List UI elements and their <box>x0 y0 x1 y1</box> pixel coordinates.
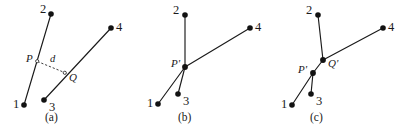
point-label-P-prime-panel-c: P' <box>298 64 307 75</box>
vertex-label-1-panel-b: 1 <box>147 97 153 110</box>
segment-2-Qprime-panel-c <box>318 15 323 60</box>
vertex-2-dot-panel-c <box>315 12 321 18</box>
point-label-Q-prime-panel-c: Q' <box>328 58 338 69</box>
panel-caption-c: (c) <box>310 112 323 124</box>
vertex-2-dot-panel-a <box>48 11 54 17</box>
point-P-marker-panel-a <box>36 60 39 63</box>
vertex-label-4-panel-a: 4 <box>116 21 122 34</box>
diagram-canvas <box>0 0 407 135</box>
vertex-3-dot-panel-a <box>41 97 47 103</box>
vertex-3-dot-panel-b <box>175 91 181 97</box>
point-P-prime-marker-panel-b <box>182 64 188 70</box>
point-label-Q-panel-a: Q <box>69 72 77 83</box>
vertex-1-dot-panel-a <box>21 102 27 108</box>
panel-caption-b: (b) <box>178 112 191 124</box>
vertex-1-dot-panel-c <box>289 102 295 108</box>
distance-label-d-panel-a: d <box>50 54 55 65</box>
panel-a-group <box>21 11 114 108</box>
vertex-label-2-panel-c: 2 <box>306 4 312 17</box>
vertex-2-dot-panel-b <box>182 12 188 18</box>
point-Q-prime-marker-panel-c <box>320 57 326 63</box>
point-Q-marker-panel-a <box>63 71 66 74</box>
segment-1-Pprime-panel-c <box>292 73 313 105</box>
point-label-P-panel-a: P <box>26 53 33 64</box>
point-P-prime-marker-panel-c <box>310 70 316 76</box>
vertex-label-4-panel-b: 4 <box>255 21 261 34</box>
vertex-label-3-panel-c: 3 <box>316 95 322 108</box>
segment-1-Pprime-panel-b <box>158 67 185 104</box>
vertex-label-4-panel-c: 4 <box>388 21 394 34</box>
vertex-label-1-panel-c: 1 <box>281 98 287 111</box>
vertex-1-dot-panel-b <box>155 101 161 107</box>
vertex-label-2-panel-a: 2 <box>40 3 46 16</box>
segment-Pprime-4-panel-b <box>185 28 250 67</box>
vertex-label-1-panel-a: 1 <box>13 98 19 111</box>
vertex-label-3-panel-b: 3 <box>183 95 189 108</box>
figure-container: 1 2 3 4 P Q d (a) 1 2 3 4 P' (b) 1 2 3 4… <box>0 0 407 135</box>
vertex-4-dot-panel-c <box>380 25 386 31</box>
vertex-label-2-panel-b: 2 <box>173 4 179 17</box>
vertex-4-dot-panel-b <box>247 25 253 31</box>
panel-b-group <box>155 12 253 107</box>
point-label-P-prime-panel-b: P' <box>171 58 180 69</box>
vertex-3-dot-panel-c <box>308 91 314 97</box>
segment-Qprime-4-panel-c <box>323 28 383 60</box>
panel-caption-a: (a) <box>45 112 58 124</box>
vertex-4-dot-panel-a <box>108 25 114 31</box>
